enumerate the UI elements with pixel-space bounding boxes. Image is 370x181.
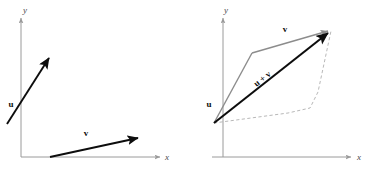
right-panel-x-axis-label: x	[356, 152, 361, 162]
right-panel-vector-v-label: v	[283, 24, 288, 34]
right-panel-y-axis-label: y	[223, 5, 228, 15]
left-panel-vector-v-label: v	[84, 128, 89, 138]
left-panel-x-axis-label: x	[164, 152, 169, 162]
left-panel-vector-u	[7, 58, 49, 124]
left-panel-y-axis-label: y	[22, 5, 27, 15]
left-panel-vector-u-label: u	[8, 99, 13, 109]
right-panel-vector-u-label: u	[206, 99, 211, 109]
left-panel-vector-v	[50, 138, 138, 157]
vector-addition-figure: y x u v y x u v u + v	[0, 0, 370, 181]
figure-canvas: y x u v y x u v u + v	[0, 0, 370, 181]
right-panel	[212, 18, 351, 157]
right-panel-vector-u	[214, 53, 252, 123]
